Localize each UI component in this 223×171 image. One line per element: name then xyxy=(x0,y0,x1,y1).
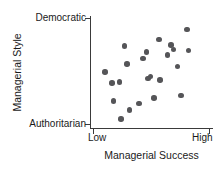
scatter-point xyxy=(184,27,190,33)
scatter-points-layer xyxy=(90,16,213,128)
x-axis-line xyxy=(90,128,213,129)
x-axis-tick-label-low: Low xyxy=(88,133,106,143)
scatter-point xyxy=(186,48,192,54)
scatter-point xyxy=(111,98,117,104)
scatter-point xyxy=(124,61,130,67)
x-axis-tick-label-high: High xyxy=(192,133,213,143)
x-axis-title: Managerial Success xyxy=(80,150,223,161)
scatter-point xyxy=(148,74,154,80)
scatter-point xyxy=(117,79,123,85)
scatter-point xyxy=(156,37,162,43)
scatter-point xyxy=(140,56,146,62)
scatter-point xyxy=(151,95,157,101)
scatter-point xyxy=(102,69,108,75)
scatter-point xyxy=(178,93,184,99)
y-axis-title: Managerial Style xyxy=(12,8,23,138)
scatter-point xyxy=(118,116,124,122)
scatter-point xyxy=(171,47,177,53)
scatter-plot-figure: Democratic Authoritarian Low High Manage… xyxy=(0,0,223,171)
y-axis-tick-label-authoritarian: Authoritarian xyxy=(29,119,86,129)
scatter-point xyxy=(175,64,181,70)
scatter-point xyxy=(165,52,171,58)
scatter-point xyxy=(157,77,163,83)
scatter-point xyxy=(136,101,142,107)
scatter-point xyxy=(127,107,133,113)
y-axis-tick-label-democratic: Democratic xyxy=(35,13,86,23)
scatter-point xyxy=(122,43,128,49)
scatter-point xyxy=(144,49,150,55)
scatter-point xyxy=(109,80,115,86)
